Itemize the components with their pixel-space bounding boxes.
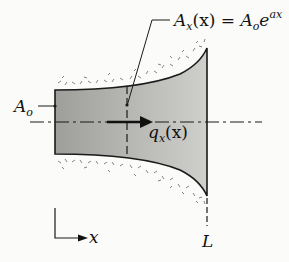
inlet-area-label: Ao [12,96,33,119]
x-axis-glyph [55,208,80,238]
flux-label: qx(x) [148,122,188,145]
area-formula-label: Ax(x) = Aoeax [172,8,283,33]
axis-label: x [89,227,99,247]
x-axis-arrow-icon [78,235,88,242]
length-label: L [201,231,213,251]
inlet-area-point [53,104,56,107]
tapered-bar-diagram: Ax(x) = Aoeax Ao qx(x) x L [0,0,289,262]
